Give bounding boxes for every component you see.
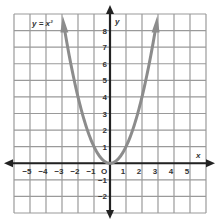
x-tick-label: −5 [22, 167, 32, 176]
y-tick-label: 3 [103, 110, 108, 119]
x-tick-label: 5 [185, 167, 190, 176]
x-axis-label: x [195, 151, 201, 160]
y-tick-label: 5 [103, 76, 108, 85]
x-tick-label: −3 [54, 167, 64, 176]
y-tick-label: 7 [103, 43, 108, 52]
equation-label: y = x² [31, 19, 53, 28]
y-tick-label: 6 [103, 60, 108, 69]
y-tick-label: 2 [103, 126, 108, 135]
x-tick-label: −2 [70, 167, 80, 176]
x-tick-label: 3 [153, 167, 158, 176]
axes [4, 5, 215, 219]
y-tick-label: 1 [103, 143, 108, 152]
x-tick-label: 2 [137, 167, 142, 176]
y-tick-label: 4 [103, 93, 108, 102]
parabola-chart: −5−4−3−2−1O1234587654321−1−2 y = x² y x [0, 0, 219, 223]
y-tick-label: −2 [98, 192, 108, 201]
x-tick-label: 1 [121, 167, 126, 176]
y-axis-label: y [114, 17, 120, 26]
x-tick-label: −4 [38, 167, 48, 176]
x-tick-label: 4 [169, 167, 174, 176]
x-tick-label: −1 [86, 167, 96, 176]
y-tick-label: −1 [98, 176, 108, 185]
y-tick-label: 8 [103, 27, 108, 36]
